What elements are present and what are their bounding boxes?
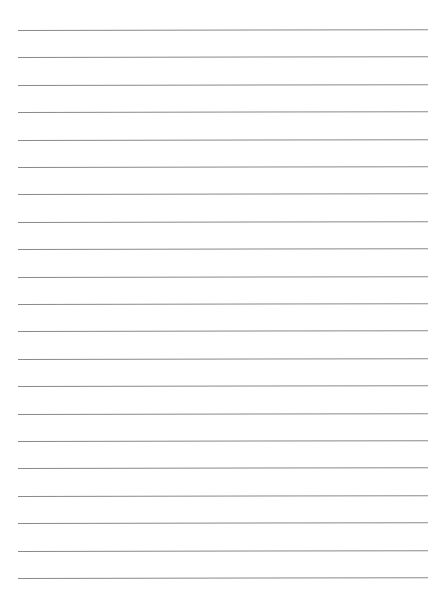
- ruled-line: [18, 303, 428, 305]
- ruled-line: [18, 440, 428, 442]
- ruled-line: [18, 111, 428, 113]
- ruled-line: [18, 29, 428, 31]
- ruled-line: [18, 522, 428, 524]
- ruled-line: [18, 56, 428, 58]
- ruled-line: [18, 358, 428, 360]
- ruled-line: [18, 550, 428, 552]
- ruled-line: [18, 413, 428, 415]
- lined-paper-page: [0, 0, 428, 602]
- ruled-line: [18, 495, 428, 497]
- ruled-line: [18, 330, 428, 332]
- ruled-line: [18, 84, 428, 86]
- ruled-line: [18, 577, 428, 579]
- ruled-line: [18, 467, 428, 469]
- ruled-line: [18, 248, 428, 250]
- ruled-line: [18, 276, 428, 278]
- ruled-line: [18, 385, 428, 387]
- ruled-line: [18, 139, 428, 141]
- ruled-line: [18, 221, 428, 223]
- ruled-line: [18, 193, 428, 195]
- ruled-line: [18, 166, 428, 168]
